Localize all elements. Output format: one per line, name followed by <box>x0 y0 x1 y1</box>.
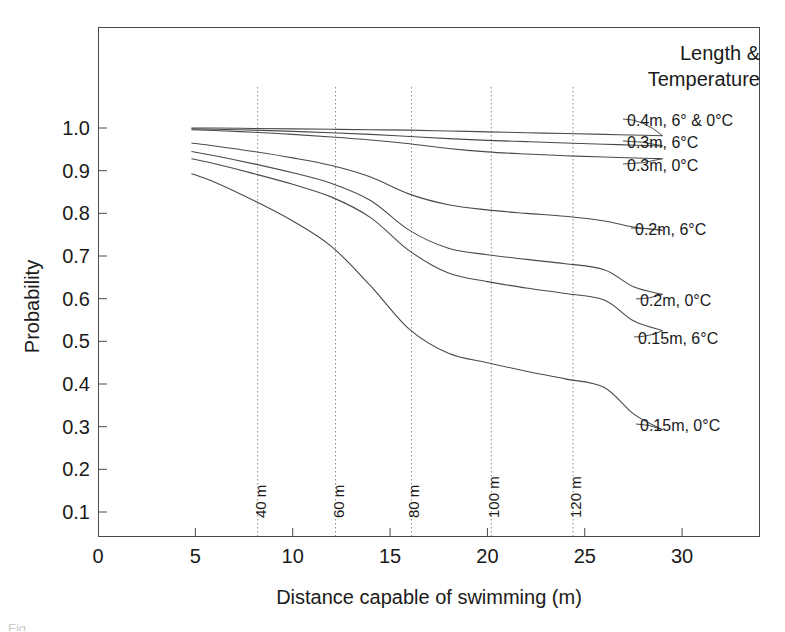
y-axis-tick-label: 0.8 <box>44 203 90 223</box>
legend-title-line-1: Length & <box>600 40 760 66</box>
figure-caption-clipped: Fig. <box>8 622 338 631</box>
legend-title: Length & Temperature <box>600 40 760 92</box>
series-label: 0.15m, 6°C <box>638 331 718 347</box>
vertical-marker-label: 120 m <box>568 476 583 518</box>
vertical-marker-label: 60 m <box>331 485 346 518</box>
figure-container: 1.00.90.80.70.60.50.40.30.20.1 051015202… <box>0 0 785 632</box>
vertical-marker-label: 80 m <box>406 485 421 518</box>
y-axis-tick-label: 0.6 <box>44 289 90 309</box>
series-label: 0.3m, 0°C <box>627 158 698 174</box>
y-axis-tick-label: 0.1 <box>44 502 90 522</box>
y-axis-tick-label: 0.4 <box>44 374 90 394</box>
y-axis-title: Probability <box>21 217 44 397</box>
y-axis-tick-label: 0.7 <box>44 246 90 266</box>
series-label: 0.2m, 6°C <box>635 222 706 238</box>
series-label: 0.2m, 0°C <box>640 293 711 309</box>
y-axis-tick-label: 0.2 <box>44 459 90 479</box>
series-label: 0.4m, 6° & 0°C <box>627 113 733 129</box>
x-axis-tick-label: 5 <box>170 546 220 566</box>
x-axis-title: Distance capable of swimming (m) <box>98 586 760 609</box>
x-axis-tick-label: 20 <box>462 546 512 566</box>
y-axis-tick-label: 0.9 <box>44 161 90 181</box>
legend-title-line-2: Temperature <box>600 66 760 92</box>
x-axis-tick-label: 30 <box>657 546 707 566</box>
vertical-marker-label: 100 m <box>486 476 501 518</box>
x-axis-tick-label: 0 <box>73 546 123 566</box>
y-axis-tick-label: 0.5 <box>44 331 90 351</box>
x-axis-tick-label: 10 <box>268 546 318 566</box>
y-axis-tick-label: 0.3 <box>44 417 90 437</box>
vertical-marker-label: 40 m <box>253 485 268 518</box>
x-axis-tick-label-group: 051015202530 <box>0 546 785 574</box>
series-label: 0.3m, 6°C <box>627 135 698 151</box>
x-axis-tick-label: 15 <box>365 546 415 566</box>
y-axis-tick-label: 1.0 <box>44 118 90 138</box>
series-label: 0.15m, 0°C <box>640 418 720 434</box>
x-axis-tick-label: 25 <box>560 546 610 566</box>
plot-frame <box>98 27 760 537</box>
